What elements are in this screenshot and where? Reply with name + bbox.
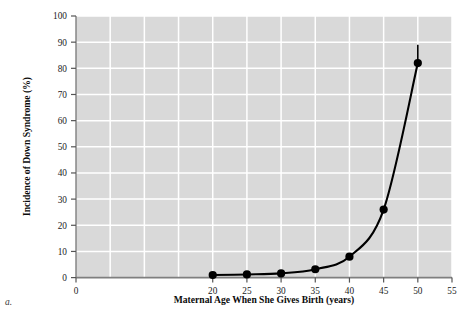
y-tick-label-20: 20: [58, 221, 68, 231]
y-tick-label-60: 60: [58, 116, 68, 126]
data-point-50: [414, 59, 422, 67]
figure-container: 0102030405060708090100 02025303540455055…: [0, 0, 473, 320]
x-axis-title: Maternal Age When She Gives Birth (years…: [174, 294, 355, 306]
y-tick-label-70: 70: [58, 90, 68, 100]
panel-label: a.: [5, 297, 12, 307]
y-axis-title: Incidence of Down Syndrome (%): [21, 77, 33, 216]
y-tick-label-10: 10: [58, 247, 68, 257]
x-tick-label-55: 55: [447, 286, 457, 296]
y-tick-label-90: 90: [58, 38, 68, 48]
y-tick-label-40: 40: [58, 168, 68, 178]
data-point-40: [345, 253, 353, 261]
x-tick-label-0: 0: [74, 286, 79, 296]
data-point-35: [311, 265, 319, 273]
x-tick-label-45: 45: [379, 286, 389, 296]
y-tick-label-100: 100: [53, 11, 67, 21]
y-tick-label-80: 80: [58, 64, 68, 74]
y-tick-label-0: 0: [62, 273, 67, 283]
y-tick-label-30: 30: [58, 195, 68, 205]
y-tick-label-50: 50: [58, 142, 68, 152]
data-point-45: [380, 205, 388, 213]
down-syndrome-incidence-chart: 0102030405060708090100 02025303540455055…: [0, 0, 473, 320]
x-tick-label-50: 50: [413, 286, 423, 296]
data-point-20: [209, 271, 217, 279]
data-point-25: [243, 270, 251, 278]
data-point-30: [277, 269, 285, 277]
